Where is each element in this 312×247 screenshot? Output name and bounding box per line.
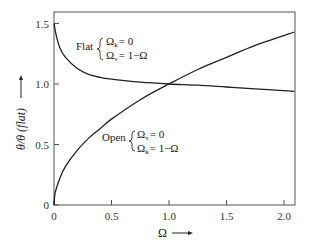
y-tick-label: 1.0 bbox=[35, 78, 49, 90]
x-tick-label: 0.5 bbox=[105, 210, 119, 222]
chart-canvas: 00.51.01.52.0 00.51.01.5 Flat Ωk= 0 Ωv= … bbox=[0, 0, 312, 247]
y-axis-ticks: 00.51.01.5 bbox=[35, 18, 59, 212]
flat-brace-icon bbox=[97, 38, 103, 60]
open-condition-1: Ωv= 0 bbox=[137, 128, 165, 142]
x-tick-label: 2.0 bbox=[277, 210, 291, 222]
x-arrowhead-icon bbox=[188, 231, 193, 235]
x-axis-label: Ω bbox=[158, 226, 167, 240]
y-axis-label-group: θ/θ (flat) bbox=[14, 75, 28, 150]
y-axis-label: θ/θ (flat) bbox=[14, 108, 28, 150]
open-brace-icon bbox=[129, 131, 135, 151]
y-tick-label: 1.5 bbox=[35, 18, 49, 30]
open-annotation: Open Ωv= 0 Ωk= 1−Ω bbox=[102, 128, 179, 156]
x-tick-label: 1.5 bbox=[220, 210, 234, 222]
open-label: Open bbox=[102, 131, 126, 143]
flat-annotation: Flat Ωk= 0 Ωv= 1−Ω bbox=[76, 35, 148, 63]
flat-condition-1: Ωk= 0 bbox=[106, 35, 134, 49]
flat-condition-2: Ωv= 1−Ω bbox=[106, 49, 148, 63]
open-condition-2: Ωk= 1−Ω bbox=[137, 142, 179, 156]
x-tick-label: 0 bbox=[51, 210, 57, 222]
x-axis-ticks: 00.51.01.52.0 bbox=[51, 200, 291, 222]
y-tick-label: 0.5 bbox=[35, 139, 49, 151]
y-tick-label: 0 bbox=[44, 199, 50, 211]
x-tick-label: 1.0 bbox=[162, 210, 176, 222]
open-curve bbox=[54, 32, 294, 205]
flat-label: Flat bbox=[76, 40, 93, 52]
y-arrowhead-icon bbox=[19, 75, 23, 80]
